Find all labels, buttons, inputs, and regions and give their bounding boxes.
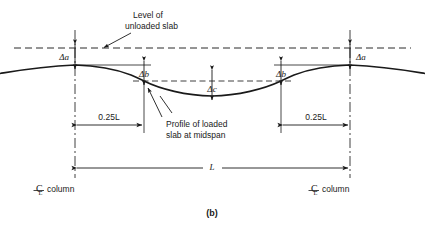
profile-leader-1 [148, 88, 162, 117]
quarter-span-right-label: 0.25L [305, 112, 327, 122]
right-column-centerline-glyph-sub: L [314, 189, 318, 196]
profile-label-line2: slab at midspan [166, 130, 226, 140]
profile-leader-2 [160, 96, 172, 113]
delta-a-right-label: Δa [355, 52, 366, 62]
quarter-span-right-dimension: 0.25L [281, 83, 348, 133]
profile-label-line1: Profile of loaded [166, 119, 228, 129]
left-column-label-text: column [47, 184, 75, 194]
column-centerlines-group [75, 30, 350, 178]
left-column-label-group: C L column [34, 183, 75, 196]
full-span-dimension: L [77, 160, 348, 173]
level-unloaded-label-line2: unloaded slab [125, 21, 178, 31]
level-unloaded-label-line1: Level of [133, 10, 163, 20]
level-unloaded-leader [104, 33, 131, 48]
quarter-span-left-label: 0.25L [98, 112, 120, 122]
delta-c-label: Δc [206, 84, 216, 94]
quarter-span-left-dimension: 0.25L [77, 83, 144, 133]
right-column-label-text: column [322, 184, 350, 194]
left-column-centerline-glyph-sub: L [39, 189, 43, 196]
slab-deflection-diagram: Level of unloaded slab Δa Δa [0, 0, 425, 226]
delta-a-left-label: Δa [58, 52, 69, 62]
figure-container: Level of unloaded slab Δa Δa [0, 0, 425, 226]
figure-caption: (b) [206, 208, 218, 218]
right-column-label-group: C L column [309, 183, 350, 196]
delta-b-right-label: Δb [275, 69, 286, 79]
figure-caption-group: (b) [206, 208, 218, 218]
quarter-span-right-value: 0.25L [305, 112, 327, 122]
quarter-span-left-value: 0.25L [98, 112, 120, 122]
delta-b-left-label: Δb [138, 69, 149, 79]
full-span-label: L [208, 162, 214, 172]
level-unloaded-annotation: Level of unloaded slab [104, 10, 178, 48]
